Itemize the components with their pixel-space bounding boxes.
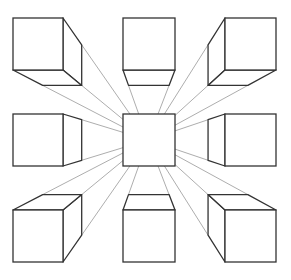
cube-center bbox=[123, 114, 175, 166]
cube-top-left bbox=[13, 18, 82, 85]
cube-front-face bbox=[225, 210, 276, 262]
cube-bottom-right bbox=[208, 195, 276, 262]
cube-top-right bbox=[208, 18, 276, 85]
cube-front-face bbox=[123, 18, 175, 70]
perspective-drawing bbox=[0, 0, 291, 280]
perspective-diagram bbox=[0, 0, 291, 280]
cube-middle-right bbox=[208, 114, 276, 166]
cube-side-face bbox=[208, 114, 225, 166]
cube-middle-left bbox=[13, 114, 82, 166]
cube-bottom-center bbox=[123, 195, 175, 262]
cube-front-face bbox=[13, 210, 63, 262]
cube-front-face bbox=[123, 210, 175, 262]
cube-top-face bbox=[123, 195, 175, 210]
cube-front-face bbox=[225, 18, 276, 70]
cube-side-face bbox=[63, 114, 82, 166]
cube-front-face bbox=[13, 18, 63, 70]
cube-grid bbox=[13, 18, 276, 262]
cube-bottom-face bbox=[123, 70, 175, 85]
cube-front-face bbox=[123, 114, 175, 166]
cube-front-face bbox=[225, 114, 276, 166]
cube-front-face bbox=[13, 114, 63, 166]
cube-top-center bbox=[123, 18, 175, 85]
cube-bottom-left bbox=[13, 195, 82, 262]
